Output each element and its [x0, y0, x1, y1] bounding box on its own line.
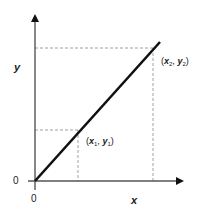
point-1-label: (x1, y1) — [86, 136, 114, 147]
point-2-close-paren: ) — [186, 56, 189, 66]
x-origin-label: 0 — [31, 193, 37, 204]
point-1-close-paren: ) — [111, 136, 114, 146]
x-axis-label: x — [130, 194, 138, 206]
y-origin-label: 0 — [13, 175, 19, 186]
y-axis-label: y — [13, 61, 21, 73]
diagram-canvas: y x 0 0 (x1, y1) (x2, y2) — [0, 0, 201, 213]
linear-function-line — [35, 42, 160, 181]
point-2-label: (x2, y2) — [161, 56, 189, 67]
